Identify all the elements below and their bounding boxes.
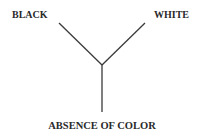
y-junction-lines — [0, 0, 200, 136]
right-branch-line — [102, 23, 145, 65]
label-absence-of-color: ABSENCE OF COLOR — [0, 121, 200, 131]
left-branch-line — [59, 23, 102, 65]
